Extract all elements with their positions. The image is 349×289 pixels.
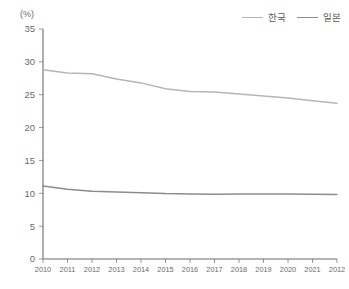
x-tick-label: 2011 (60, 265, 76, 274)
x-tick-label: 2020 (280, 265, 296, 274)
y-axis-ticks: 05101520253035 (24, 23, 43, 264)
y-tick-label: 10 (24, 188, 35, 199)
series-line-korea (43, 70, 337, 104)
series-line-japan (43, 186, 337, 195)
x-tick-label: 2016 (182, 265, 198, 274)
y-tick-label: 25 (24, 89, 35, 100)
y-tick-label: 5 (30, 221, 35, 232)
x-tick-label: 2013 (108, 265, 124, 274)
y-tick-label: 20 (24, 122, 35, 133)
x-tick-label: 2019 (255, 265, 271, 274)
data-series-group (43, 70, 337, 195)
x-tick-label: 2018 (231, 265, 247, 274)
x-tick-label: 2021 (304, 265, 320, 274)
x-tick-label: 2014 (133, 265, 149, 274)
line-chart: (%) 한국 일본 05101520253035 201020112012201… (0, 0, 349, 289)
x-tick-label: 2012 (329, 265, 345, 274)
x-axis-ticks: 2010201120122013201420152016201720182019… (35, 259, 345, 274)
x-tick-label: 2012 (84, 265, 100, 274)
y-tick-label: 15 (24, 155, 35, 166)
plot-area: 05101520253035 2010201120122013201420152… (0, 0, 349, 289)
x-tick-label: 2010 (35, 265, 51, 274)
x-tick-label: 2017 (206, 265, 222, 274)
y-tick-label: 0 (30, 253, 35, 264)
y-tick-label: 30 (24, 56, 35, 67)
y-tick-label: 35 (24, 23, 35, 34)
x-tick-label: 2015 (157, 265, 173, 274)
